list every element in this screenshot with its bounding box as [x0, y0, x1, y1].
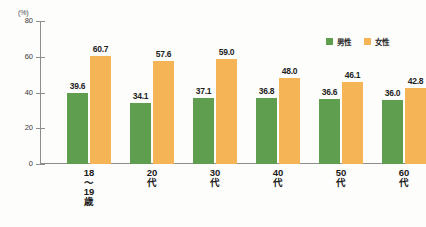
bar-value-label: 36.0 — [385, 88, 400, 98]
x-axis-label: 60代 — [378, 168, 426, 187]
y-axis-tick-label: 40 — [15, 89, 33, 97]
y-axis-tick: 60 — [0, 57, 45, 58]
x-axis-label-line: 代 — [378, 178, 426, 188]
bar-group: 39.660.7 — [63, 21, 115, 164]
y-axis-tick-label: 0 — [15, 160, 33, 168]
bar-value-label: 46.1 — [345, 70, 360, 80]
bar-female[interactable]: 59.0 — [216, 59, 237, 164]
bar-female[interactable]: 60.7 — [90, 56, 111, 165]
bar-male[interactable]: 37.1 — [193, 98, 214, 164]
bar-male[interactable]: 36.0 — [382, 100, 403, 164]
y-axis-tick-mark — [36, 164, 45, 165]
x-axis-label-line: 代 — [252, 178, 304, 188]
x-axis-label: 50代 — [315, 168, 367, 187]
bar-female[interactable]: 46.1 — [342, 82, 363, 164]
y-axis-unit-label: (%) — [18, 9, 28, 16]
bar-group: 37.159.0 — [189, 21, 241, 164]
bar-chart: (%) 806040200 39.660.734.157.637.159.036… — [0, 0, 426, 227]
bar-male[interactable]: 36.8 — [256, 98, 277, 164]
bar-female[interactable]: 42.8 — [405, 88, 426, 165]
bar-male[interactable]: 36.6 — [319, 99, 340, 164]
x-axis-label-line: 代 — [126, 178, 178, 188]
y-axis-tick: 0 — [0, 164, 45, 165]
x-axis-label: 18〜19歳 — [63, 168, 115, 207]
bar-value-label: 36.8 — [259, 86, 274, 96]
chart-legend: 男性女性 — [326, 36, 389, 47]
bar-value-label: 59.0 — [219, 47, 234, 57]
x-axis-label-line: 歳 — [63, 197, 115, 207]
bar-group: 34.157.6 — [126, 21, 178, 164]
legend-swatch-icon — [326, 38, 333, 45]
x-axis-label-line: 代 — [315, 178, 367, 188]
bar-value-label: 34.1 — [133, 91, 148, 101]
bar-value-label: 60.7 — [93, 44, 108, 54]
x-axis-label: 20代 — [126, 168, 178, 187]
x-axis-label-line: 代 — [189, 178, 241, 188]
legend-item-female[interactable]: 女性 — [364, 36, 389, 47]
bar-group: 36.848.0 — [252, 21, 304, 164]
legend-item-male[interactable]: 男性 — [326, 36, 351, 47]
x-axis-label: 40代 — [252, 168, 304, 187]
bar-value-label: 36.6 — [322, 87, 337, 97]
legend-label: 女性 — [375, 36, 389, 47]
y-axis-tick: 40 — [0, 93, 45, 94]
legend-swatch-icon — [364, 38, 371, 45]
y-axis-tick-label: 20 — [15, 124, 33, 132]
y-axis-tick: 20 — [0, 128, 45, 129]
bar-value-label: 39.6 — [70, 81, 85, 91]
bar-value-label: 48.0 — [282, 66, 297, 76]
y-axis-tick: 80 — [0, 21, 45, 22]
y-axis-tick-label: 80 — [15, 17, 33, 25]
y-axis-tick-label: 60 — [15, 53, 33, 61]
x-axis-label: 30代 — [189, 168, 241, 187]
bar-male[interactable]: 39.6 — [67, 93, 88, 164]
bar-value-label: 57.6 — [156, 49, 171, 59]
legend-label: 男性 — [337, 36, 351, 47]
bar-value-label: 37.1 — [196, 86, 211, 96]
bar-value-label: 42.8 — [408, 76, 423, 86]
bar-male[interactable]: 34.1 — [130, 103, 151, 164]
bar-female[interactable]: 57.6 — [153, 61, 174, 164]
bar-female[interactable]: 48.0 — [279, 78, 300, 164]
